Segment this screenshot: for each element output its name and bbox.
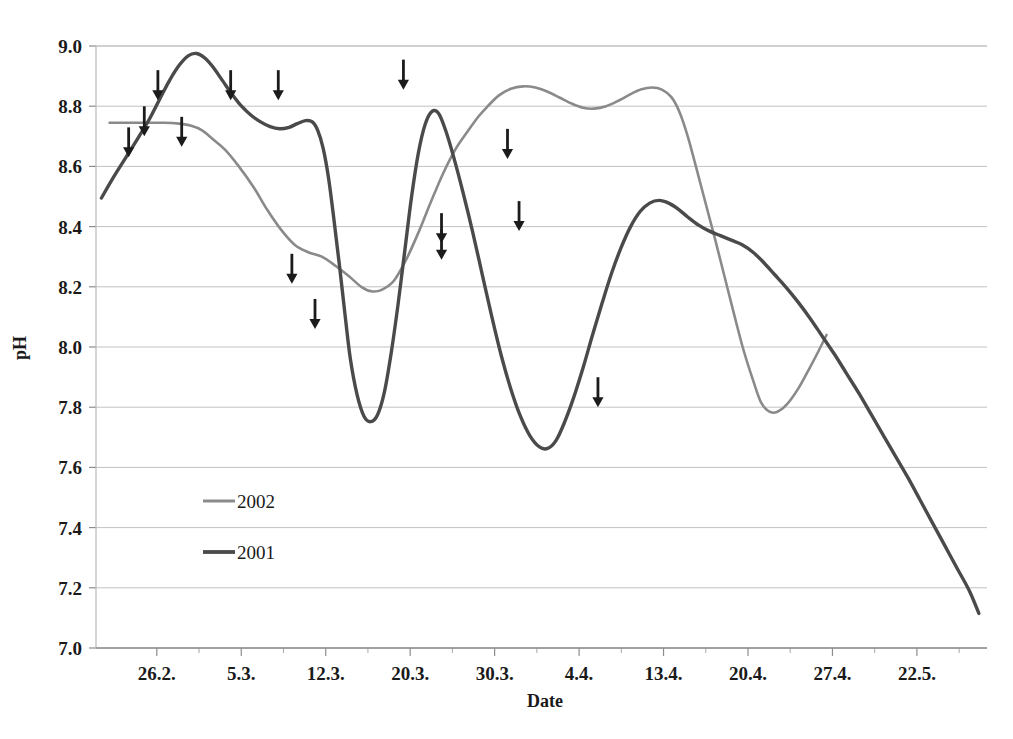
down-arrow-icon: [502, 129, 513, 159]
x-axis-tick-label: 22.5.: [898, 663, 936, 684]
y-axis-tick-label: 7.8: [58, 397, 82, 418]
down-arrow-icon: [273, 70, 284, 100]
y-axis-tick-label: 7.6: [58, 457, 82, 478]
x-axis-tick-label: 26.2.: [138, 663, 176, 684]
arrow-annotations: [123, 60, 604, 408]
gridlines: [89, 46, 987, 648]
x-axis-tick-label: 20.3.: [391, 663, 429, 684]
y-axis-tick-label: 8.2: [58, 277, 82, 298]
y-axis-tick-label: 7.0: [58, 638, 82, 659]
series-line-2001: [101, 53, 978, 613]
legend-label-2001: 2001: [237, 542, 275, 563]
down-arrow-icon: [592, 377, 603, 407]
y-axis-tick-labels: 9.08.88.68.48.28.07.87.67.47.27.0: [58, 36, 82, 659]
y-axis-tick-label: 7.4: [58, 518, 82, 539]
x-axis-tick-label: 5.3.: [227, 663, 256, 684]
x-axis-tick-label: 4.4.: [565, 663, 594, 684]
series-lines: [101, 53, 978, 613]
y-axis-tick-label: 8.6: [58, 156, 82, 177]
x-axis-ticks: [157, 648, 959, 656]
down-arrow-icon: [176, 117, 187, 147]
legend-item-2001: 2001: [203, 542, 275, 563]
down-arrow-icon: [123, 127, 134, 157]
x-axis-tick-label: 13.4.: [645, 663, 683, 684]
x-axis-tick-label: 20.4.: [729, 663, 767, 684]
ph-time-series-chart: 9.08.88.68.48.28.07.87.67.47.27.0 26.2.5…: [0, 0, 1013, 739]
x-axis-tick-label: 30.3.: [476, 663, 514, 684]
y-axis-tick-label: 8.4: [58, 217, 82, 238]
down-arrow-icon: [398, 60, 409, 90]
legend-label-2002: 2002: [237, 491, 275, 512]
legend-item-2002: 2002: [203, 491, 275, 512]
y-axis-tick-label: 9.0: [58, 36, 82, 57]
x-axis-tick-label: 12.3.: [307, 663, 345, 684]
x-axis-title: Date: [527, 691, 563, 711]
x-axis-tick-label: 27.4.: [813, 663, 851, 684]
y-axis-tick-label: 8.8: [58, 96, 82, 117]
x-axis-tick-labels: 26.2.5.3.12.3.20.3.30.3.4.4.13.4.20.4.27…: [138, 663, 936, 684]
chart-canvas: 9.08.88.68.48.28.07.87.67.47.27.0 26.2.5…: [0, 0, 1013, 739]
y-axis-tick-label: 8.0: [58, 337, 82, 358]
y-axis-tick-label: 7.2: [58, 578, 82, 599]
down-arrow-icon: [286, 254, 297, 284]
series-line-2002: [110, 86, 827, 412]
down-arrow-icon: [309, 299, 320, 329]
legend: 20022001: [203, 491, 275, 563]
y-axis-title: pH: [10, 336, 30, 360]
